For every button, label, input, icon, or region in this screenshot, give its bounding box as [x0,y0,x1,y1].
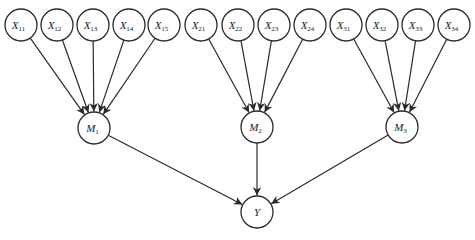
node-label-subscript: 12 [54,25,62,33]
node-label-subscript: 34 [451,25,459,33]
edge-x33-to-m3 [405,41,416,111]
node-x31: X31 [330,9,362,41]
node-label-subscript: 22 [235,25,243,33]
node-x14: X14 [113,9,145,41]
node-label-subscript: 24 [307,25,315,33]
node-x33: X33 [402,9,434,41]
edge-m3-to-y [271,135,388,204]
node-label-subscript: 31 [343,25,351,33]
node-m3: M3 [386,111,418,143]
node-x12: X12 [41,9,73,41]
node-y: Y [241,196,273,228]
nodes: X11X12X13X14X15X21X22X23X24X31X32X33X34M… [5,9,470,228]
node-label-subscript: 23 [271,25,279,33]
node-x24: X24 [294,9,326,41]
node-label-subscript: 14 [126,25,134,33]
edge-x13-to-m1 [93,41,94,112]
node-x34: X34 [438,9,470,41]
node-label-subscript: 13 [90,25,98,33]
edge-x23-to-m2 [260,41,272,111]
node-label-subscript: 21 [198,25,206,33]
edge-m1-to-y [108,135,242,204]
node-x32: X32 [366,9,398,41]
edge-x11-to-m1 [30,38,84,114]
node-label-subscript: 3 [403,127,407,135]
node-label-subscript: 2 [258,127,262,135]
node-label-subscript: 11 [18,25,25,33]
node-m2: M2 [241,111,273,143]
node-x22: X22 [222,9,254,41]
node-x11: X11 [5,9,37,41]
node-label-subscript: 32 [379,25,387,33]
node-x21: X21 [185,9,217,41]
node-m1: M1 [78,112,110,144]
path-diagram: X11X12X13X14X15X21X22X23X24X31X32X33X34M… [0,0,475,240]
node-label-subscript: 33 [415,25,423,33]
node-label-subscript: 15 [161,25,169,33]
node-x23: X23 [258,9,290,41]
edge-x31-to-m3 [354,39,394,113]
node-x13: X13 [77,9,109,41]
node-x15: X15 [148,9,180,41]
node-label-subscript: 1 [95,128,99,136]
edge-x34-to-m3 [409,39,446,112]
